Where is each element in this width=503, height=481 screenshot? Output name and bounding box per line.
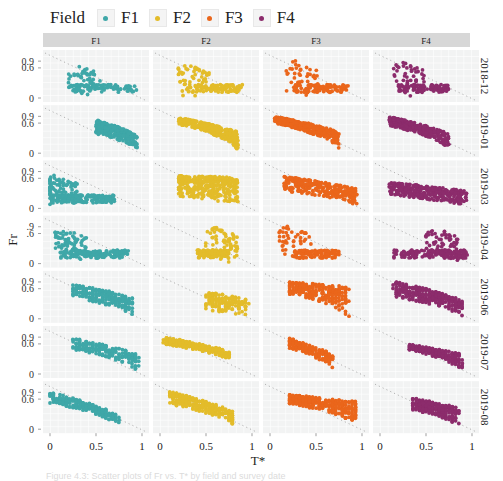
y-tick-label: 0 [29,313,34,324]
facet-row-label: 2019-03 [479,168,491,205]
facet-row-label: 2019-04 [479,223,491,260]
x-tick-label: 0 [267,440,273,452]
x-tick-label: 1 [249,440,255,452]
facet-row-label: 2019-01 [479,113,491,150]
y-tick-label: 0 [29,93,34,104]
y-tick-label: 0 [29,369,34,380]
y-tick-label: 0 [29,148,34,159]
x-tick-label: 0.5 [89,440,103,452]
x-tick-label: 1 [469,440,475,452]
x-tick-label: 1 [359,440,365,452]
x-tick-label: 0.5 [419,440,433,452]
facet-strip-label: F2 [201,36,211,46]
y-tick-label: 0 [29,258,34,269]
facet-row-label: 2018-12 [479,58,491,95]
y-axis-title: Fr [5,234,20,246]
x-tick-label: 0 [377,440,383,452]
y-tick-label: 0 [29,424,34,435]
y-tick-label: 0 [29,203,34,214]
facet-strip-label: F3 [311,36,321,46]
facet-row-label: 2019-07 [479,334,491,371]
x-tick-label: 0 [47,440,53,452]
facet-strip-label: F4 [421,36,431,46]
y-tick-label: 0.6 [22,338,35,349]
facet-row-label: 2019-06 [479,278,491,315]
facet-strip-label: F1 [91,36,101,46]
x-axis-title: T* [251,453,265,468]
x-tick-label: 0.5 [309,440,323,452]
y-tick-label: 0.6 [22,118,35,129]
y-tick-label: 0.6 [22,283,35,294]
y-tick-label: 0.6 [22,62,35,73]
x-tick-label: 0 [157,440,163,452]
y-tick-label: 0.6 [22,173,35,184]
x-tick-label: 0.5 [199,440,213,452]
facet-scatter-chart: F1F2F3F42018-120.90.602019-010.90.602019… [0,0,503,481]
x-tick-label: 1 [139,440,145,452]
facet-row-label: 2019-08 [479,389,491,426]
figure-caption: Figure 4.3: Scatter plots of Fr vs. T* b… [46,471,285,481]
y-tick-label: .6 [27,228,35,239]
y-tick-label: 0.6 [22,394,35,405]
